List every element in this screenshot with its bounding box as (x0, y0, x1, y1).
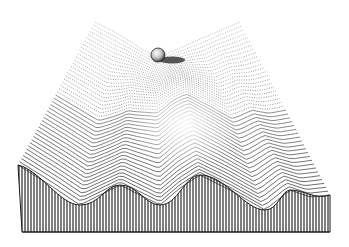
front-cross-section (18, 165, 330, 232)
hill-highlight (130, 80, 240, 170)
ball (151, 48, 165, 62)
energy-landscape-drawing (0, 0, 349, 247)
illustration: Engraved line illustration of a 3D energ… (0, 0, 349, 247)
